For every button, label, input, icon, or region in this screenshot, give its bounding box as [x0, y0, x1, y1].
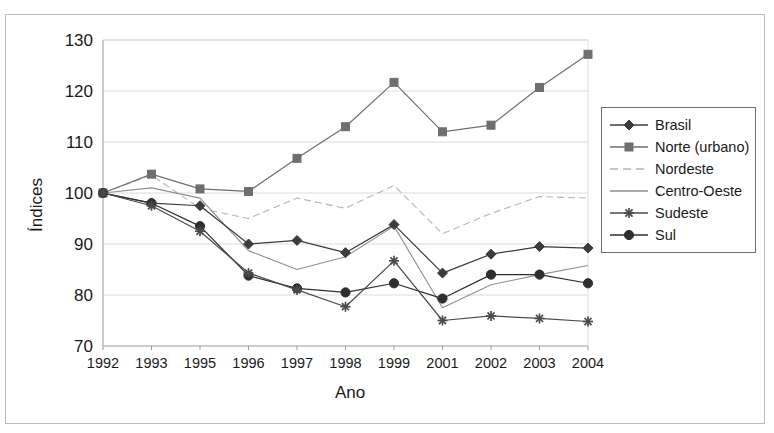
data-point-marker: [486, 311, 496, 321]
data-point-marker: [245, 187, 253, 195]
data-point-marker: [625, 143, 633, 151]
data-point-marker: [584, 50, 592, 58]
legend-swatch-icon: [608, 206, 650, 220]
y-tick-label: 80: [74, 286, 93, 305]
data-point-marker: [147, 201, 157, 211]
data-point-marker: [624, 230, 633, 239]
x-tick-label: 1998: [329, 355, 361, 371]
x-tick-label: 2001: [426, 355, 458, 371]
chart-legend: BrasilNorte (urbano)NordesteCentro-Oeste…: [601, 107, 756, 253]
data-point-marker: [195, 226, 205, 236]
series-line: [103, 193, 588, 299]
data-point-marker: [583, 279, 592, 288]
series-brasil: [98, 188, 593, 278]
legend-swatch-icon: [608, 118, 650, 132]
data-point-marker: [196, 185, 204, 193]
data-point-marker: [535, 313, 545, 323]
y-tick-label: 130: [65, 31, 93, 50]
chart-figure: 708090100110120130 199219931995199619971…: [0, 0, 774, 433]
legend-item-sudeste[interactable]: Sudeste: [602, 202, 755, 224]
data-point-marker: [624, 208, 634, 218]
x-tick-label: 1997: [281, 355, 313, 371]
data-point-marker: [535, 242, 545, 252]
data-point-marker: [244, 268, 254, 278]
data-point-marker: [487, 121, 495, 129]
data-point-marker: [342, 123, 350, 131]
legend-item-label: Sudeste: [655, 205, 708, 221]
data-point-marker: [624, 120, 634, 130]
data-point-marker: [293, 154, 301, 162]
data-point-marker: [389, 256, 399, 266]
x-tick-label: 1993: [135, 355, 167, 371]
x-tick-label: 2004: [572, 355, 604, 371]
y-tick-label: 90: [74, 235, 93, 254]
data-point-marker: [389, 279, 398, 288]
y-tick-label: 120: [65, 82, 93, 101]
series-norte-urbano: [99, 50, 592, 197]
legend-item-label: Norte (urbano): [655, 139, 749, 155]
data-point-marker: [486, 249, 496, 259]
x-axis-title: Ano: [335, 383, 365, 402]
data-point-marker: [583, 243, 593, 253]
legend-item-brasil[interactable]: Brasil: [602, 114, 755, 136]
data-point-marker: [148, 170, 156, 178]
data-point-marker: [438, 294, 447, 303]
x-tick-label: 2002: [475, 355, 507, 371]
legend-item-centro-oeste[interactable]: Centro-Oeste: [602, 180, 755, 202]
legend-item-label: Brasil: [655, 117, 691, 133]
data-point-marker: [341, 288, 350, 297]
y-tick-label: 110: [66, 133, 93, 152]
legend-swatch-icon: [608, 140, 650, 154]
x-tick-label: 1992: [87, 355, 119, 371]
data-point-marker: [535, 270, 544, 279]
x-tick-label: 2003: [523, 355, 555, 371]
data-point-marker: [536, 83, 544, 91]
y-axis-tick-labels: 708090100110120130: [65, 31, 93, 356]
data-point-marker: [341, 302, 351, 312]
legend-item-norte-urbano[interactable]: Norte (urbano): [602, 136, 755, 158]
series-sul: [98, 188, 592, 303]
data-point-marker: [341, 248, 351, 258]
data-point-marker: [583, 317, 593, 327]
y-tick-label: 70: [74, 337, 93, 356]
legend-item-label: Sul: [655, 227, 676, 243]
data-point-marker: [438, 316, 448, 326]
data-series-group: [98, 50, 593, 326]
legend-swatch-icon: [608, 162, 650, 176]
legend-swatch-icon: [608, 184, 650, 198]
legend-item-nordeste[interactable]: Nordeste: [602, 158, 755, 180]
legend-swatch-icon: [608, 228, 650, 242]
x-tick-label: 1999: [378, 355, 410, 371]
data-point-marker: [390, 78, 398, 86]
data-point-marker: [292, 285, 302, 295]
data-point-marker: [98, 188, 108, 198]
legend-item-sul[interactable]: Sul: [602, 224, 755, 246]
x-axis-tick-labels: 1992199319951996199719981999200120022003…: [87, 346, 604, 371]
legend-item-label: Centro-Oeste: [655, 183, 742, 199]
y-tick-label: 100: [65, 184, 93, 203]
x-tick-label: 1996: [232, 355, 264, 371]
y-axis-title: Índices: [27, 178, 46, 232]
legend-item-label: Nordeste: [655, 161, 714, 177]
data-point-marker: [486, 270, 495, 279]
x-tick-label: 1995: [184, 355, 216, 371]
data-point-marker: [439, 128, 447, 136]
